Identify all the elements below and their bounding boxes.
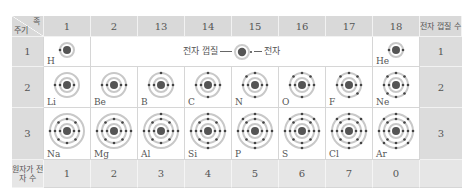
valence-label: 원자가 전자 수 [12, 160, 44, 188]
bohr-model-icon [279, 108, 325, 154]
element-cell: Cl [326, 108, 373, 160]
bohr-model-icon [232, 108, 278, 154]
element-cell: Be [91, 67, 138, 108]
bohr-model-icon [44, 108, 90, 154]
period-label: 3 [12, 108, 44, 160]
bohr-model-icon [143, 67, 179, 103]
group-header: 17 [326, 16, 373, 37]
footer-empty [420, 160, 462, 188]
element-symbol: Mg [94, 149, 109, 159]
valence-count: 6 [279, 160, 326, 188]
legend-electron-label: 전자 [264, 47, 280, 56]
group-header: 13 [138, 16, 185, 37]
element-cell: Si [185, 108, 232, 160]
group-axis-label: 족 [33, 17, 40, 26]
element-symbol: O [282, 97, 289, 107]
element-symbol: Si [188, 149, 197, 159]
element-cell: Na [44, 108, 91, 160]
legend: 전자 껍질 전자 [91, 37, 373, 67]
element-cell: Al [138, 108, 185, 160]
group-header: 2 [91, 16, 138, 37]
bohr-model-icon [185, 108, 231, 154]
element-symbol: Li [47, 97, 56, 107]
valence-count: 2 [91, 160, 138, 188]
element-symbol: C [188, 97, 195, 107]
element-symbol: Na [47, 149, 60, 159]
element-symbol: Cl [329, 149, 339, 159]
element-cell: Ne [373, 67, 420, 108]
shell-count-header: 전자 껍질 수 [420, 16, 462, 37]
element-cell: Li [44, 67, 91, 108]
group-header: 14 [185, 16, 232, 37]
element-symbol: He [376, 56, 389, 66]
bohr-model-icon [331, 67, 367, 103]
valence-count: 1 [44, 160, 91, 188]
element-symbol: N [235, 97, 243, 107]
element-symbol: B [141, 97, 148, 107]
bohr-model-icon [54, 37, 80, 63]
element-cell: O [279, 67, 326, 108]
element-cell: S [279, 108, 326, 160]
element-symbol: Ne [376, 97, 389, 107]
element-cell: B [138, 67, 185, 108]
bohr-model-icon [373, 108, 419, 154]
legend-shell-label: 전자 껍질 [183, 47, 218, 56]
period-axis-label: 주기 [14, 26, 28, 35]
element-symbol: Al [141, 149, 150, 159]
bohr-model-icon [138, 108, 184, 154]
element-symbol: P [235, 149, 241, 159]
group-header: 1 [44, 16, 91, 37]
group-header: 15 [232, 16, 279, 37]
shell-count: 1 [420, 37, 462, 67]
periodic-table: 족 주기 1 2 13 14 15 16 17 18 전자 껍질 수 1 H 전… [12, 16, 462, 189]
legend-line [254, 51, 262, 52]
element-cell-H: H [44, 37, 91, 67]
period-label: 2 [12, 67, 44, 108]
shell-count: 3 [420, 108, 462, 160]
element-symbol: Be [94, 97, 106, 107]
element-symbol: F [329, 97, 335, 107]
element-cell: Mg [91, 108, 138, 160]
group-header: 16 [279, 16, 326, 37]
element-cell: F [326, 67, 373, 108]
element-cell: C [185, 67, 232, 108]
bohr-model-icon [91, 108, 137, 154]
corner-header: 족 주기 [12, 16, 44, 37]
shell-count: 2 [420, 67, 462, 108]
element-cell-He: He [373, 37, 420, 67]
element-cell: N [232, 67, 279, 108]
valence-count: 7 [326, 160, 373, 188]
group-header: 18 [373, 16, 420, 37]
bohr-model-icon [284, 67, 320, 103]
element-symbol: Ar [376, 149, 387, 159]
element-cell: P [232, 108, 279, 160]
valence-count: 5 [232, 160, 279, 188]
legend-line [220, 51, 232, 52]
valence-count: 3 [138, 160, 185, 188]
legend-atom-icon [234, 44, 250, 60]
period-label: 1 [12, 37, 44, 67]
bohr-model-icon [326, 108, 372, 154]
valence-count: 0 [373, 160, 420, 188]
element-symbol: H [47, 56, 55, 66]
element-symbol: S [282, 149, 288, 159]
valence-count: 4 [185, 160, 232, 188]
legend-electron-dot [250, 51, 252, 53]
element-cell: Ar [373, 108, 420, 160]
bohr-model-icon [190, 67, 226, 103]
